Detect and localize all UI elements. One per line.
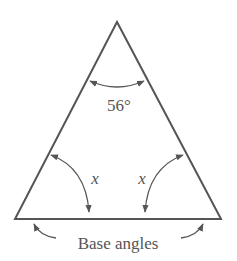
left-base-angle-label: x [90, 169, 99, 188]
right-base-angle-label: x [137, 169, 146, 188]
apex-angle-label: 56° [107, 96, 131, 115]
right-caption-arrow [181, 224, 203, 238]
apex-angle-arc [90, 81, 144, 87]
triangle-diagram: 56° x x Base angles [0, 0, 237, 261]
left-caption-arrow [34, 224, 56, 238]
left-base-angle-arc [51, 155, 89, 212]
base-angles-caption: Base angles [78, 234, 159, 253]
right-base-angle-arc [145, 155, 183, 212]
triangle-outline [15, 22, 221, 219]
